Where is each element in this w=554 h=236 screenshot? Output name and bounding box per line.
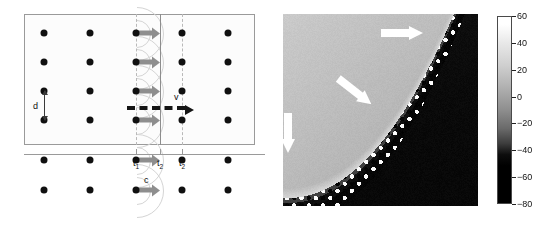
- wave-speed-label-c: c: [144, 175, 149, 185]
- lattice-dot: [41, 30, 48, 37]
- colorbar-tick: [512, 97, 516, 98]
- intensity-colorbar: [497, 16, 512, 204]
- propagation-arrow: [138, 31, 153, 36]
- arrow-head: [409, 26, 423, 40]
- propagation-arrow: [138, 118, 153, 123]
- lattice-dot: [225, 88, 232, 95]
- lattice-dot: [87, 157, 94, 164]
- lattice-dot: [133, 88, 140, 95]
- axis-tick-label-0: t1: [133, 158, 139, 170]
- lattice-dot: [133, 117, 140, 124]
- colorbar-tick-label-7: −80: [517, 199, 532, 209]
- propagation-arrow: [138, 158, 153, 163]
- arrow-top-right: [381, 26, 423, 40]
- colorbar-tick: [512, 204, 516, 205]
- axis-tick-mark: [160, 149, 161, 155]
- lattice-dot: [87, 88, 94, 95]
- lattice-dot: [179, 59, 186, 66]
- colorbar-tick: [512, 123, 516, 124]
- lattice-dot: [225, 187, 232, 194]
- lattice-dot: [41, 157, 48, 164]
- bottom-axis-line: [24, 154, 265, 155]
- time-line-t2-solid: [160, 14, 161, 145]
- front-velocity-arrow: [127, 106, 185, 110]
- lattice-dot: [87, 30, 94, 37]
- axis-tick-mark: [182, 149, 183, 155]
- colorbar-tick: [512, 16, 516, 17]
- colorbar-tick: [512, 70, 516, 71]
- lattice-dot: [133, 30, 140, 37]
- axis-tick-label-2: t2: [179, 158, 185, 170]
- lattice-dot: [179, 30, 186, 37]
- lattice-dot: [225, 59, 232, 66]
- axis-tick-label-1: t2: [157, 158, 163, 170]
- front-velocity-label-v: v: [174, 92, 179, 102]
- heatmap-canvas: [283, 14, 478, 206]
- lattice-dot: [133, 187, 140, 194]
- spacing-measure-d: [44, 91, 45, 120]
- colorbar-tick-label-3: 0: [517, 92, 522, 102]
- colorbar-tick-label-5: −40: [517, 145, 532, 155]
- arrow-head: [281, 139, 295, 153]
- colorbar-tick: [512, 150, 516, 151]
- axis-tick-mark: [136, 149, 137, 155]
- lattice-dot: [133, 59, 140, 66]
- lattice-dot: [225, 117, 232, 124]
- colorbar-tick-label-2: 20: [517, 65, 527, 75]
- lattice-dot: [87, 59, 94, 66]
- lattice-dot: [225, 157, 232, 164]
- heatmap-panel: [283, 14, 478, 206]
- colorbar-tick-label-0: 60: [517, 11, 527, 21]
- arrow-left: [281, 113, 295, 153]
- colorbar-tick-label-6: −60: [517, 172, 532, 182]
- spacing-label-d: d: [33, 101, 38, 111]
- colorbar-tick: [512, 43, 516, 44]
- lattice-dot: [179, 187, 186, 194]
- arrow-shaft: [381, 29, 410, 37]
- lattice-dot: [179, 88, 186, 95]
- colorbar-tick-label-1: 40: [517, 38, 527, 48]
- propagation-arrow: [138, 89, 153, 94]
- lattice-dot: [179, 117, 186, 124]
- propagation-arrow: [138, 188, 153, 193]
- lattice-dot: [225, 30, 232, 37]
- lattice-dot: [41, 187, 48, 194]
- lattice-dot: [87, 117, 94, 124]
- lattice-dot: [87, 187, 94, 194]
- lattice-dot: [41, 59, 48, 66]
- colorbar-tick: [512, 177, 516, 178]
- propagation-arrow: [138, 60, 153, 65]
- figure-root: dvct1t2t2 6040200−20−40−60−80: [0, 0, 554, 236]
- colorbar-tick-label-4: −20: [517, 118, 532, 128]
- arrow-shaft: [284, 113, 292, 140]
